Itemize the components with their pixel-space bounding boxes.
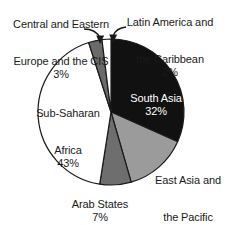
slice-label-latin-america-line1: Latin America and (127, 16, 213, 28)
slice-label-sub-saharan-africa: Sub-Saharan Africa 43% (30, 95, 106, 181)
slice-label-arab-states-line1: Arab States (72, 198, 128, 210)
slice-label-latin-america-percent: 2% (112, 66, 228, 78)
slice-label-east-asia-pacific-line2: the Pacific (163, 211, 213, 223)
slice-label-cee-cis-line1: Central and Eastern (13, 18, 109, 30)
slice-label-south-asia: South Asia 32% (117, 80, 195, 129)
slice-label-arab-states: Arab States 7% (54, 186, 146, 225)
pie-chart-figure: Central and Eastern Europe and the CIS 3… (0, 0, 232, 225)
slice-label-latin-america-line2: the Caribbean (136, 53, 204, 65)
slice-label-sub-saharan-africa-line1: Sub-Saharan (36, 107, 100, 119)
slice-label-east-asia-pacific: East Asia and the Pacific 14% (146, 162, 230, 225)
slice-label-east-asia-pacific-line1: East Asia and (155, 174, 221, 186)
slice-label-sub-saharan-africa-line2: Africa (54, 144, 82, 156)
slice-label-sub-saharan-africa-percent: 43% (30, 157, 106, 169)
slice-label-south-asia-line1: South Asia (130, 92, 182, 104)
slice-label-east-asia-pacific-percent: 14% (146, 224, 230, 225)
slice-label-cee-cis: Central and Eastern Europe and the CIS 3… (2, 6, 120, 92)
slice-label-cee-cis-percent: 3% (2, 68, 120, 80)
slice-label-latin-america: Latin America and the Caribbean 2% (112, 4, 228, 90)
slice-label-arab-states-percent: 7% (54, 211, 146, 223)
slice-label-cee-cis-line2: Europe and the CIS (14, 55, 109, 67)
slice-label-south-asia-percent: 32% (117, 105, 195, 117)
